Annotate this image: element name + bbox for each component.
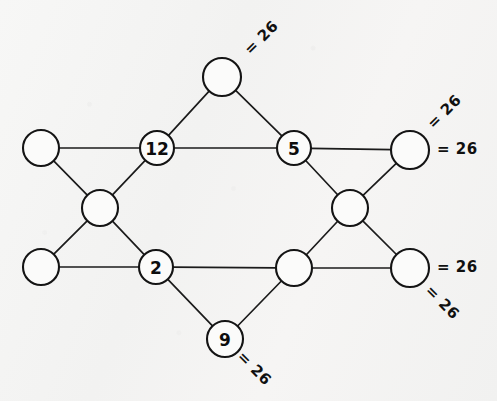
node-layer: 12529	[23, 58, 429, 357]
graph-edge	[362, 220, 397, 255]
graph-node-twelve[interactable]: 12	[140, 131, 174, 165]
hexagram-graph: 12529	[0, 0, 497, 401]
graph-edge	[168, 91, 210, 136]
diagram-canvas: 12529 = 26= 26= 26= 26= 26= 26	[0, 0, 497, 401]
graph-node-top[interactable]	[203, 58, 241, 96]
node-circle[interactable]	[203, 58, 241, 96]
node-circle[interactable]	[82, 190, 118, 226]
node-value-label: 9	[219, 330, 231, 350]
graph-node-five[interactable]: 5	[277, 131, 311, 165]
node-circle[interactable]	[332, 190, 368, 226]
graph-node-left-upper[interactable]	[23, 130, 59, 166]
sum-right-lower: = 26	[437, 258, 478, 276]
graph-edge	[305, 160, 338, 195]
graph-node-bottom-mid[interactable]	[276, 250, 312, 286]
node-circle[interactable]	[23, 130, 59, 166]
graph-node-left-middle[interactable]	[82, 190, 118, 226]
graph-edge	[112, 221, 145, 255]
node-circle[interactable]	[276, 250, 312, 286]
node-circle[interactable]	[391, 131, 429, 169]
graph-edge	[172, 267, 276, 268]
graph-node-two[interactable]: 2	[139, 250, 173, 284]
graph-node-nine[interactable]: 9	[207, 321, 243, 357]
node-value-label: 2	[150, 258, 162, 278]
node-value-label: 5	[288, 139, 300, 159]
graph-edge	[53, 220, 87, 254]
graph-edge	[306, 221, 338, 256]
graph-edge	[167, 279, 213, 327]
graph-node-right-upper[interactable]	[391, 131, 429, 169]
graph-node-right-lower[interactable]	[391, 249, 429, 287]
node-value-label: 12	[145, 139, 169, 159]
graph-edge	[237, 280, 282, 326]
graph-edge	[310, 148, 391, 149]
graph-edge	[112, 160, 146, 196]
graph-node-left-lower[interactable]	[23, 249, 59, 285]
graph-node-right-middle[interactable]	[332, 190, 368, 226]
sum-right-middle: = 26	[437, 140, 478, 158]
graph-edge	[53, 160, 88, 195]
node-circle[interactable]	[23, 249, 59, 285]
node-circle[interactable]	[391, 249, 429, 287]
graph-edge	[235, 90, 282, 137]
graph-edge	[363, 163, 397, 196]
